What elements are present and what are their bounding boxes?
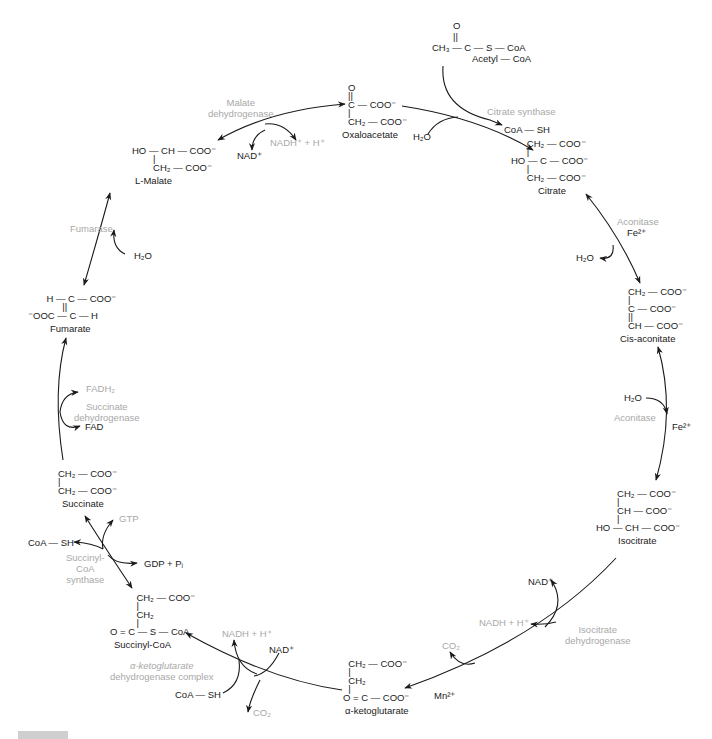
enzyme-label-line: dehydrogenase complex bbox=[110, 671, 214, 682]
cofactor-fadh2: FADH₂ bbox=[86, 383, 115, 394]
cofactor-fad: FAD bbox=[85, 421, 103, 432]
cofactor-nad-akg-dh: NAD⁺ bbox=[269, 644, 294, 655]
molecule-acetyl-coa: O || CH₃ — C — S — CoA Acetyl — CoA bbox=[432, 20, 531, 64]
structure-line: C — COO⁻ bbox=[628, 303, 687, 314]
molecule-name: α-ketoglutarate bbox=[345, 705, 410, 716]
enzyme-akg-dehydrogenase-complex: α-ketoglutarate dehydrogenase complex bbox=[110, 660, 214, 682]
arrow-scs-coash bbox=[74, 542, 103, 549]
figure-caption-text bbox=[70, 730, 320, 739]
enzyme-label-line: Succinate bbox=[74, 401, 140, 412]
molecule-name: Isocitrate bbox=[618, 535, 680, 546]
arrow-scs-gdp bbox=[108, 555, 137, 563]
molecule-alpha-ketoglutarate: CH₂ — COO⁻ | CH₂ | O = C — COO⁻ α-ketogl… bbox=[343, 658, 410, 716]
molecule-l-malate: HO — CH — COO⁻ | CH₂ — COO⁻ L-Malate bbox=[132, 145, 216, 186]
arrow-idh-nad bbox=[545, 580, 558, 627]
cofactor-nad-isocitrate-dh: NAD⁺ bbox=[528, 576, 553, 587]
structure-line: CH₂ — COO⁻ bbox=[343, 658, 410, 669]
structure-line: CH₂ — COO⁻ bbox=[58, 485, 117, 496]
enzyme-label-line: synthase bbox=[66, 574, 105, 585]
molecule-succinate: CH₂ — COO⁻ | CH₂ — COO⁻ Succinate bbox=[58, 468, 117, 509]
structure-line: CH₂ — COO⁻ bbox=[511, 172, 588, 183]
structure-line: HO — CH — COO⁻ bbox=[596, 522, 680, 533]
molecule-isocitrate: CH₂ — COO⁻ | CH — COO⁻ | HO — CH — COO⁻ … bbox=[596, 488, 680, 546]
cofactor-nadh-malate-dh: NADH⁺ + H⁺ bbox=[270, 137, 325, 148]
arrow-idh-co2 bbox=[450, 652, 475, 664]
cofactor-nadh-akg-dh: NADH + H⁺ bbox=[222, 628, 272, 639]
arrow-akg-nad bbox=[254, 653, 279, 676]
cofactor-h2o-fumarase: H₂O bbox=[134, 250, 152, 261]
cofactor-coash-succinyl-coa-synthase: CoA — SH bbox=[28, 537, 74, 548]
arrow-fumarate-malate bbox=[84, 193, 110, 285]
molecule-name: Citrate bbox=[538, 185, 588, 196]
enzyme-label-line: dehydrogenase bbox=[565, 635, 631, 646]
cofactor-mn-isocitrate-dh: Mn²⁺ bbox=[434, 690, 455, 701]
structure-line: C — COO⁻ bbox=[348, 99, 407, 110]
tca-cycle-diagram: O || CH₃ — C — S — CoA Acetyl — CoA O ||… bbox=[0, 0, 712, 739]
molecule-succinyl-coa: CH₂ — COO⁻ | CH₂ | O = C — S — CoA Succi… bbox=[110, 592, 195, 650]
arrow-fum-h2o bbox=[114, 230, 125, 254]
molecule-cis-aconitate: CH₂ — COO⁻ | C — COO⁻ || CH — COO⁻ Cis-a… bbox=[628, 286, 687, 344]
molecule-name: Fumarate bbox=[50, 323, 116, 334]
structure-line: CH — COO⁻ bbox=[628, 320, 687, 331]
molecule-oxaloacetate: O || C — COO⁻ | CH₂ — COO⁻ Oxaloacetate bbox=[348, 82, 407, 140]
structure-line: O bbox=[348, 82, 407, 93]
structure-line: || bbox=[432, 31, 531, 42]
structure-line: CH₃ — C — S — CoA bbox=[432, 42, 531, 53]
enzyme-succinate-dehydrogenase: Succinate dehydrogenase bbox=[74, 401, 140, 423]
cofactor-gdp-pi: GDP + Pᵢ bbox=[144, 558, 183, 569]
structure-line: ⁻OOC — C — H bbox=[28, 310, 116, 321]
cofactor-coash-akg-dh: CoA — SH bbox=[175, 689, 221, 700]
enzyme-label-line: Succinyl- bbox=[66, 552, 105, 563]
structure-line: O bbox=[432, 20, 531, 31]
molecule-citrate: CH₂ — COO⁻ | HO — C — COO⁻ | CH₂ — COO⁻ … bbox=[511, 138, 588, 196]
enzyme-label-line: Isocitrate bbox=[565, 624, 631, 635]
cofactor-co2-akg-dh: CO₂ bbox=[253, 707, 271, 718]
enzyme-isocitrate-dehydrogenase: Isocitrate dehydrogenase bbox=[565, 624, 631, 646]
enzyme-label-line: dehydrogenase bbox=[74, 412, 140, 423]
structure-line: O = C — COO⁻ bbox=[343, 692, 410, 703]
arrow-citrate-to-cisaconitate bbox=[586, 194, 640, 283]
enzyme-fumarase: Fumarase bbox=[70, 223, 113, 234]
enzyme-succinyl-coa-synthase: Succinyl- CoA synthase bbox=[66, 552, 105, 585]
arrow-idh-nadh bbox=[531, 622, 556, 624]
molecule-name: Cis-aconitate bbox=[620, 333, 687, 344]
structure-line: CH₂ bbox=[343, 675, 410, 686]
enzyme-aconitase-1: Aconitase bbox=[617, 216, 659, 227]
molecule-name: Oxaloacetate bbox=[342, 129, 407, 140]
molecule-name: Succinate bbox=[62, 498, 117, 509]
cofactor-nadh-isocitrate-dh: NADH + H⁺ bbox=[479, 617, 529, 628]
arrow-cisaconitate-to-isocitrate bbox=[656, 347, 667, 480]
arrow-aconitase1-h2o bbox=[600, 245, 613, 258]
cofactor-h2o-citrate-synthase: H₂O bbox=[413, 131, 431, 142]
structure-line: CH₂ — COO⁻ bbox=[58, 468, 117, 479]
enzyme-malate-dehydrogenase: Malate dehydrogenase bbox=[208, 97, 274, 119]
enzyme-citrate-synthase: Citrate synthase bbox=[487, 106, 556, 117]
molecule-name: Succinyl-CoA bbox=[114, 639, 195, 650]
cofactor-nad-malate-dh: NAD⁺ bbox=[237, 150, 262, 161]
cofactor-h2o-aconitase-2: H₂O bbox=[624, 392, 642, 403]
structure-line: CH₂ — COO⁻ bbox=[628, 286, 687, 297]
structure-line: O = C — S — CoA bbox=[110, 626, 195, 637]
molecule-name: L-Malate bbox=[135, 175, 216, 186]
structure-line: CH₂ — COO⁻ bbox=[132, 162, 216, 173]
cofactor-fe-aconitase-1: Fe²⁺ bbox=[627, 227, 646, 238]
arrow-akg-coash bbox=[223, 660, 239, 693]
arrow-citrate-synthase-h2o bbox=[428, 117, 458, 134]
cofactor-h2o-aconitase-1: H₂O bbox=[576, 252, 594, 263]
cofactor-fe-aconitase-2: Fe²⁺ bbox=[672, 421, 691, 432]
enzyme-label-line: Malate bbox=[208, 97, 274, 108]
figure-caption-label bbox=[18, 731, 68, 739]
molecule-fumarate: H — C — COO⁻ || ⁻OOC — C — H Fumarate bbox=[28, 293, 116, 334]
enzyme-label-line: CoA bbox=[66, 563, 105, 574]
enzyme-aconitase-2: Aconitase bbox=[614, 412, 656, 423]
molecule-name: Acetyl — CoA bbox=[472, 53, 531, 64]
cofactor-gtp: GTP bbox=[119, 513, 139, 524]
cofactor-co2-isocitrate-dh: CO₂ bbox=[442, 640, 460, 651]
arrow-akg-nadh bbox=[234, 640, 257, 674]
cofactor-coash-citrate-synthase: CoA — SH bbox=[504, 124, 550, 135]
enzyme-label-line: α-ketoglutarate bbox=[110, 660, 214, 671]
structure-line: CH₂ — COO⁻ bbox=[348, 116, 407, 127]
arrow-mdh-nad bbox=[252, 130, 265, 150]
enzyme-label-line: dehydrogenase bbox=[208, 108, 274, 119]
